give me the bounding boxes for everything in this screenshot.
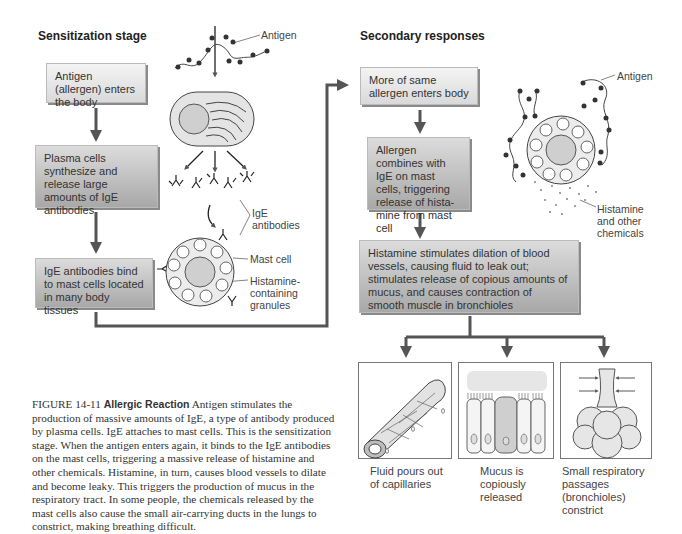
- outcome-1-line1: Mucus is: [480, 465, 526, 478]
- figure-caption: FIGURE 14-11 Allergic Reaction Antigen s…: [32, 398, 337, 534]
- ige-label-line1: IgE: [252, 207, 300, 219]
- figure-label: FIGURE 14-11: [32, 398, 101, 410]
- ige-antibodies-label: IgE antibodies: [252, 207, 300, 231]
- outcome-1-line2: copiously: [480, 478, 526, 491]
- panel-capillaries: [358, 362, 452, 459]
- figure-caption-body: Antigen stimulates the production of mas…: [32, 398, 334, 532]
- outcome-mucus-caption: Mucus is copiously released: [480, 465, 526, 504]
- antigen-label-left: Antigen: [261, 29, 297, 41]
- granules-line2: containing: [250, 287, 300, 299]
- granules-label: Histamine- containing granules: [250, 275, 300, 311]
- outcome-0-line1: Fluid pours out: [370, 465, 443, 478]
- bronchiole-illustration: [561, 363, 653, 460]
- step-more-allergen: More of same allergen enters body: [360, 67, 478, 105]
- mast-cell-label: Mast cell: [250, 253, 291, 265]
- outcome-2-line3: (bronchioles): [562, 491, 645, 504]
- panel-bronchioles: [560, 362, 652, 459]
- histamine-line2: and other: [597, 215, 644, 227]
- outcome-2-line1: Small respiratory: [562, 465, 645, 478]
- outcome-2-line4: constrict: [562, 504, 645, 517]
- outcome-1-line3: released: [480, 491, 526, 504]
- mucus-cells-illustration: [459, 363, 555, 460]
- capillary-illustration: [359, 363, 453, 460]
- antigen-label-right: Antigen: [617, 70, 653, 82]
- step-allergen-combines: Allergen combines with IgE on mast cells…: [367, 137, 470, 210]
- histamine-label: Histamine and other chemicals: [597, 203, 644, 239]
- outcome-2-line2: passages: [562, 478, 645, 491]
- panel-mucus: [458, 362, 554, 459]
- outcome-capillaries-caption: Fluid pours out of capillaries: [370, 465, 443, 491]
- outcome-bronchioles-caption: Small respiratory passages (bronchioles)…: [562, 465, 645, 517]
- secondary-heading: Secondary responses: [360, 29, 485, 43]
- step-plasma-cells: Plasma cells synthesize and release larg…: [35, 145, 158, 208]
- step-antigen-enters: Antigen (allergen) enters the body: [46, 63, 146, 103]
- step-ige-bind: IgE antibodies bind to mast cells locate…: [35, 258, 153, 308]
- figure-title: Allergic Reaction: [104, 398, 190, 410]
- sensitization-heading: Sensitization stage: [38, 29, 147, 43]
- granules-line3: granules: [250, 299, 300, 311]
- granules-line1: Histamine-: [250, 275, 300, 287]
- histamine-line3: chemicals: [597, 227, 644, 239]
- step-histamine-effects: Histamine stimulates dilation of blood v…: [359, 240, 579, 313]
- histamine-line1: Histamine: [597, 203, 644, 215]
- outcome-0-line2: of capillaries: [370, 478, 443, 491]
- ige-label-line2: antibodies: [252, 219, 300, 231]
